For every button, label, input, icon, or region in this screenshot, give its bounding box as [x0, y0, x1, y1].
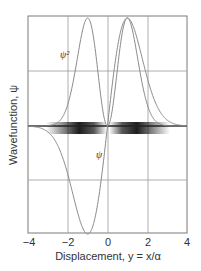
- wavefunction-chart: ψ² ψ −4 −2 0 2 4 Displacement, y = x/α W…: [0, 0, 201, 271]
- psi-label: ψ: [96, 149, 103, 160]
- x-tick: −2: [62, 236, 75, 248]
- band-right: [110, 122, 170, 134]
- x-tick: −4: [23, 236, 36, 248]
- x-axis-ticks: −4 −2 0 2 4: [23, 236, 190, 248]
- x-tick: 2: [145, 236, 151, 248]
- x-axis-label: Displacement, y = x/α: [55, 250, 161, 262]
- x-tick: 0: [105, 236, 111, 248]
- x-tick: 4: [184, 236, 190, 248]
- y-axis-label: Wavefunction, ψ: [7, 85, 19, 165]
- psi-squared-label: ψ²: [60, 49, 70, 60]
